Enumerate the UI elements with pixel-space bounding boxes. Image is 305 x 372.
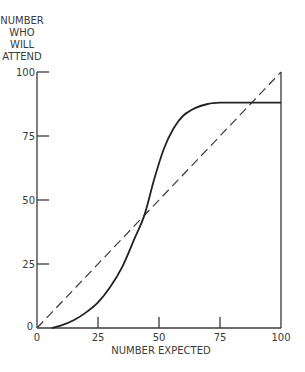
chart: NUMBER WHO WILL ATTEND 100 75 50 25 0 0 … — [0, 0, 305, 372]
svg-text:100: 100 — [16, 67, 35, 78]
svg-text:75: 75 — [22, 131, 35, 142]
svg-text:0: 0 — [27, 321, 33, 332]
y-tick-labels: 100 75 50 25 0 — [16, 67, 35, 332]
svg-text:50: 50 — [153, 332, 166, 343]
svg-text:NUMBER: NUMBER — [0, 15, 44, 26]
x-tick-labels: 0 25 50 75 100 — [34, 332, 291, 343]
attendance-curve — [52, 103, 281, 328]
svg-text:25: 25 — [92, 332, 105, 343]
svg-text:50: 50 — [22, 195, 35, 206]
svg-text:100: 100 — [271, 332, 290, 343]
y-axis-label: NUMBER WHO WILL ATTEND — [0, 15, 44, 62]
x-axis-label: NUMBER EXPECTED — [111, 345, 211, 356]
svg-text:75: 75 — [214, 332, 227, 343]
svg-text:WHO: WHO — [9, 27, 34, 38]
svg-text:WILL: WILL — [10, 39, 34, 50]
svg-text:0: 0 — [34, 332, 40, 343]
svg-text:25: 25 — [22, 259, 35, 270]
svg-text:ATTEND: ATTEND — [2, 51, 42, 62]
diagonal-dashed-line — [37, 72, 281, 328]
